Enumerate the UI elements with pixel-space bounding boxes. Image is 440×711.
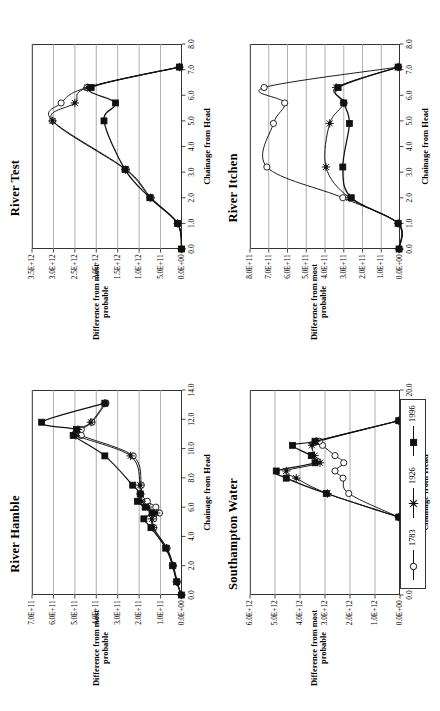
data-point-marker-open-circle xyxy=(282,100,288,106)
legend-entry-1926[interactable]: 1926 xyxy=(401,460,425,520)
data-point-marker-filled-square xyxy=(179,246,185,252)
series-1996 xyxy=(88,64,184,252)
panel-river-test: River Test Chainage from Head Difference… xyxy=(6,23,218,353)
y-axis-tick-label: 5.0E+11 xyxy=(301,255,310,297)
x-axis-tick-label: 3.0 xyxy=(187,158,196,186)
x-axis-tick-label: 12.0 xyxy=(187,405,196,433)
data-point-marker-filled-square xyxy=(176,64,182,70)
data-point-marker-filled-square xyxy=(170,563,176,569)
legend-marker-star-asterisk xyxy=(408,498,419,509)
y-axis-title-line2: probable xyxy=(101,256,110,348)
data-point-marker-open-circle xyxy=(58,100,64,106)
figure-canvas: River Hamble Chainage from Head Differen… xyxy=(0,0,440,711)
data-point-marker-filled-square xyxy=(273,468,279,474)
legend: 1783 1926 1996 xyxy=(400,399,426,589)
data-point-marker-star-asterisk xyxy=(71,99,79,107)
data-point-marker-filled-square xyxy=(178,592,184,598)
data-point-marker-open-circle xyxy=(264,164,270,170)
data-point-marker-filled-square xyxy=(395,220,401,226)
x-axis-tick-label: 2.0 xyxy=(187,184,196,212)
y-axis-tick-label: 0.0E+00 xyxy=(395,255,404,297)
y-axis-tick-label: 3.0E+12 xyxy=(320,601,329,643)
y-axis-tick-label: 7.0E+11 xyxy=(27,601,36,643)
data-point-marker-open-circle xyxy=(332,453,338,459)
data-point-marker-filled-square xyxy=(323,491,329,497)
data-point-marker-filled-square xyxy=(122,167,128,173)
y-axis-tick-label: 3.0E+11 xyxy=(113,601,122,643)
data-point-marker-open-circle xyxy=(346,490,352,496)
y-axis-tick-label: 1.5E+12 xyxy=(113,255,122,297)
data-point-marker-filled-square xyxy=(312,460,318,466)
data-point-marker-filled-square xyxy=(335,85,341,91)
x-axis-tick-label: 6.0 xyxy=(187,493,196,521)
x-axis-tick-label: 8.0 xyxy=(187,30,196,58)
x-axis-tick-label: 4.0 xyxy=(405,133,414,161)
data-point-marker-star-asterisk xyxy=(48,117,56,125)
series-1926 xyxy=(72,399,186,599)
data-point-marker-filled-square xyxy=(102,400,108,406)
legend-entry-1783[interactable]: 1783 xyxy=(401,522,425,582)
data-point-marker-open-circle xyxy=(332,468,338,474)
y-axis-tick-label: 5.0E+12 xyxy=(270,601,279,643)
y-axis-tick-label: 2.0E+11 xyxy=(358,255,367,297)
y-axis-tick-label: 3.5E+12 xyxy=(27,255,36,297)
data-point-marker-filled-square xyxy=(308,453,314,459)
y-axis-tick-label: 2.5E+12 xyxy=(70,255,79,297)
series-1996 xyxy=(39,400,185,598)
y-axis-tick-label: 5.0E+11 xyxy=(156,255,165,297)
y-axis-tick-label: 1.0E+11 xyxy=(376,255,385,297)
legend-label: 1783 xyxy=(408,529,417,546)
series-line xyxy=(77,403,181,595)
panel-river-hamble: River Hamble Chainage from Head Differen… xyxy=(6,369,218,699)
series-line xyxy=(72,403,181,595)
x-axis-tick-label: 0.0 xyxy=(405,235,414,263)
x-axis-tick-label: 8.0 xyxy=(187,464,196,492)
series-line xyxy=(314,421,399,517)
x-axis-title: Chainage from Head xyxy=(420,44,430,249)
x-axis-tick-label: 2.0 xyxy=(187,552,196,580)
data-point-marker-filled-square xyxy=(141,516,147,522)
data-point-marker-open-circle xyxy=(340,195,346,201)
legend-label: 1996 xyxy=(408,405,417,422)
data-point-marker-star-asterisk xyxy=(322,163,330,171)
x-axis-tick-label: 1.0 xyxy=(187,209,196,237)
data-point-marker-filled-square xyxy=(142,504,148,510)
x-axis-tick-label: 6.0 xyxy=(187,81,196,109)
data-point-marker-star-asterisk xyxy=(87,418,95,426)
y-axis-tick-label: 3.0E+12 xyxy=(48,255,57,297)
y-axis-tick-label: 4.0E+12 xyxy=(295,601,304,643)
data-point-marker-filled-square xyxy=(113,100,119,106)
x-axis-tick-label: 7.0 xyxy=(405,56,414,84)
y-axis-tick-label: 7.0E+11 xyxy=(264,255,273,297)
y-axis-tick-label: 4.0E+11 xyxy=(91,601,100,643)
data-point-marker-filled-square xyxy=(74,427,80,433)
x-axis-tick-label: 14.0 xyxy=(187,376,196,404)
x-axis-tick-label: 0.0 xyxy=(187,235,196,263)
x-axis-tick-label: 1.0 xyxy=(405,209,414,237)
data-point-marker-filled-square xyxy=(341,100,347,106)
x-axis-tick-label: 5.0 xyxy=(405,107,414,135)
data-point-marker-open-circle xyxy=(270,120,276,126)
y-axis-tick-label: 1.0E+12 xyxy=(370,601,379,643)
y-axis-tick-label: 2.0E+12 xyxy=(345,601,354,643)
data-point-marker-filled-square xyxy=(130,482,136,488)
legend-entry-1996[interactable]: 1996 xyxy=(401,398,425,458)
data-point-marker-open-circle xyxy=(261,84,267,90)
panel-river-itchen: River Itchen Chainage from Head Differen… xyxy=(224,23,436,353)
x-axis-tick-label: 3.0 xyxy=(405,158,414,186)
x-axis-tick-label: 0.0 xyxy=(187,581,196,609)
y-axis-tick-label: 0.0E+00 xyxy=(395,601,404,643)
data-point-marker-filled-square xyxy=(137,491,143,497)
series-1783 xyxy=(314,418,402,521)
data-point-marker-filled-square xyxy=(88,85,94,91)
data-point-marker-star-asterisk xyxy=(325,119,333,127)
x-axis-title: Chainage from Head xyxy=(202,390,212,595)
data-point-marker-filled-square xyxy=(70,432,76,438)
x-axis-tick-label: 4.0 xyxy=(187,133,196,161)
y-axis-tick-label: 1.0E+12 xyxy=(134,255,143,297)
x-axis-tick-label: 4.0 xyxy=(187,522,196,550)
data-point-marker-filled-square xyxy=(346,120,352,126)
data-point-marker-filled-square xyxy=(175,220,181,226)
data-point-marker-filled-square xyxy=(148,525,154,531)
series-line xyxy=(49,67,182,249)
